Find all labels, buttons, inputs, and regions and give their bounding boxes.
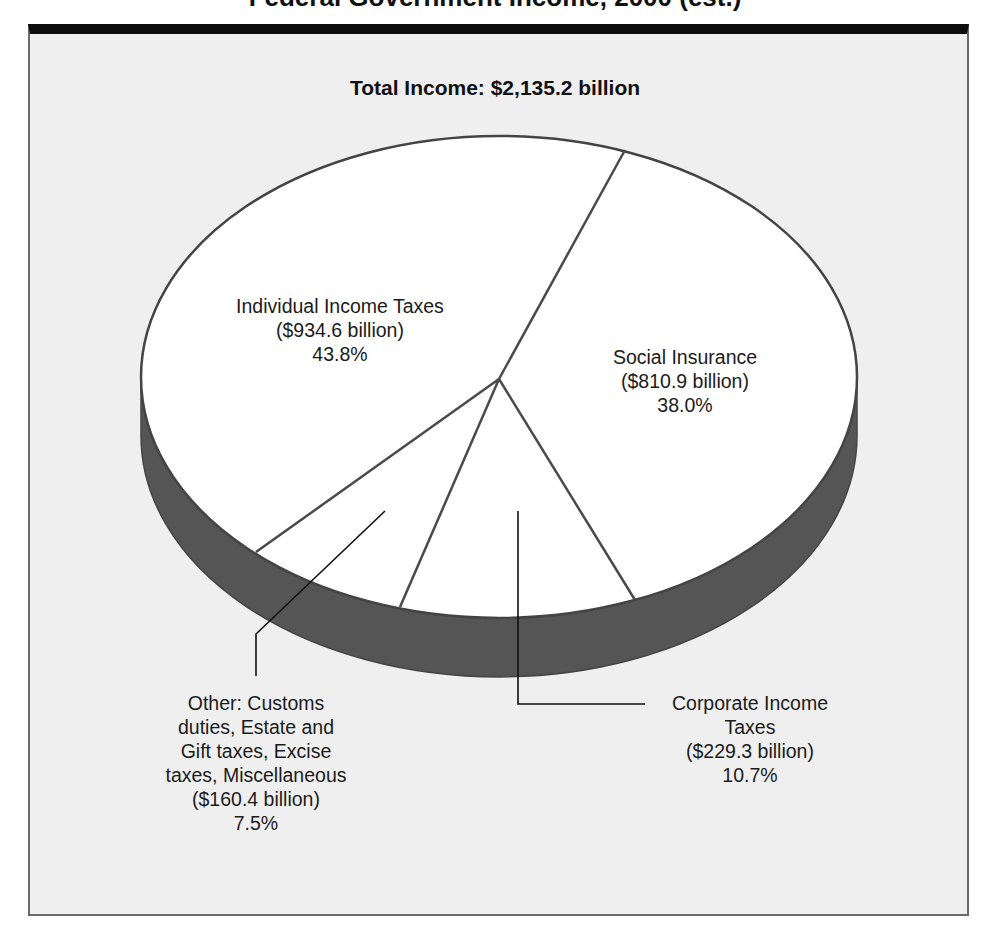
label-individual-income-taxes: Individual Income Taxes ($934.6 billion)… xyxy=(190,294,490,366)
label-other: Other: Customs duties, Estate and Gift t… xyxy=(130,691,382,835)
slice-name: Social Insurance xyxy=(570,345,800,369)
slice-value: ($160.4 billion) xyxy=(130,787,382,811)
slice-percent: 7.5% xyxy=(130,811,382,835)
slice-value: ($934.6 billion) xyxy=(190,318,490,342)
slice-name-cont: duties, Estate and xyxy=(130,715,382,739)
slice-value: ($229.3 billion) xyxy=(640,739,860,763)
label-corporate-income-taxes: Corporate Income Taxes ($229.3 billion) … xyxy=(640,691,860,787)
slice-name-cont: Taxes xyxy=(640,715,860,739)
slice-name: Individual Income Taxes xyxy=(190,294,490,318)
slice-name-cont: Gift taxes, Excise xyxy=(130,739,382,763)
slice-name: Other: Customs xyxy=(130,691,382,715)
slice-percent: 38.0% xyxy=(570,393,800,417)
label-social-insurance: Social Insurance ($810.9 billion) 38.0% xyxy=(570,345,800,417)
slice-value: ($810.9 billion) xyxy=(570,369,800,393)
slice-percent: 10.7% xyxy=(640,763,860,787)
slice-percent: 43.8% xyxy=(190,342,490,366)
slice-name: Corporate Income xyxy=(640,691,860,715)
slice-name-cont: taxes, Miscellaneous xyxy=(130,763,382,787)
